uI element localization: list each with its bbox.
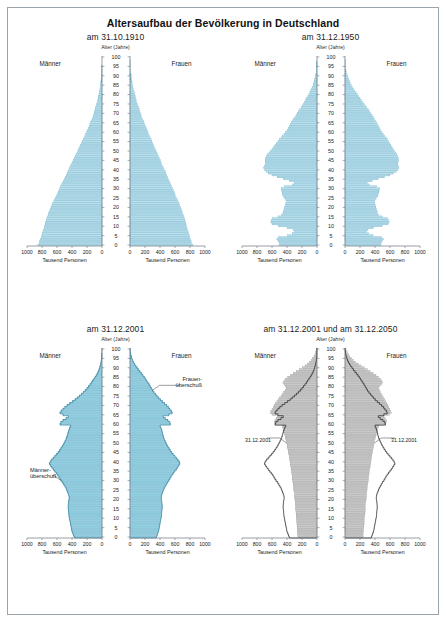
age-tick-35: 35 [328, 176, 334, 182]
bars-right [130, 350, 180, 538]
age-tick-75: 75 [113, 101, 119, 107]
svg-holder-2001-2050: 0510152025303540455055606570758085909510… [233, 342, 429, 574]
value-axis: 1000800600400200002004006008001000Tausen… [21, 538, 211, 555]
age-tick-0: 0 [329, 534, 332, 540]
age-tick-100: 100 [326, 54, 335, 60]
plot-1950: Männer Frauen 05101520253035404550556065… [233, 50, 429, 282]
xtick-left-1000: 1000 [21, 249, 33, 255]
panel-title-2001: am 31.12.2001 [8, 324, 223, 334]
xtick-right-0: 0 [343, 541, 346, 547]
age-tick-50: 50 [328, 440, 334, 446]
bars-left [37, 65, 101, 245]
age-tick-70: 70 [113, 110, 119, 116]
age-tick-10: 10 [113, 515, 119, 521]
age-tick-45: 45 [328, 157, 334, 163]
age-tick-20: 20 [328, 204, 334, 210]
xtick-right-200: 200 [140, 541, 149, 547]
age-tick-15: 15 [328, 214, 334, 220]
page-root: Altersaufbau der Bevölkerung in Deutschl… [0, 0, 446, 622]
xtick-right-1000: 1000 [199, 541, 211, 547]
panel-title-1950: am 31.12.1950 [223, 32, 438, 42]
xtick-right-600: 600 [385, 249, 394, 255]
xtick-right-800: 800 [400, 541, 409, 547]
age-tick-100: 100 [326, 346, 335, 352]
age-tick-60: 60 [328, 421, 334, 427]
age-tick-45: 45 [328, 449, 334, 455]
xtick-left-0: 0 [315, 249, 318, 255]
xtick-left-800: 800 [252, 541, 261, 547]
unit-label-left: Tausend Personen [42, 257, 86, 263]
bars-right [345, 60, 399, 246]
annotation-text: 31.12.2001 [245, 437, 271, 443]
age-tick-85: 85 [113, 82, 119, 88]
xtick-right-800: 800 [185, 249, 194, 255]
unit-label-left: Tausend Personen [257, 257, 301, 263]
age-tick-10: 10 [328, 223, 334, 229]
age-tick-65: 65 [328, 412, 334, 418]
value-axis: 1000800600400200002004006008001000Tausen… [236, 538, 426, 555]
age-tick-10: 10 [113, 223, 119, 229]
pyramid-grid: am 31.10.1910 Alter (Jahre) Männer Fraue… [8, 32, 438, 614]
figure-frame: Altersaufbau der Bevölkerung in Deutschl… [7, 7, 439, 615]
xtick-left-600: 600 [52, 249, 61, 255]
age-tick-0: 0 [114, 242, 117, 248]
age-tick-20: 20 [328, 496, 334, 502]
xtick-left-1000: 1000 [236, 249, 248, 255]
age-tick-55: 55 [328, 430, 334, 436]
unit-label-right: Tausend Personen [360, 549, 404, 555]
age-tick-0: 0 [329, 242, 332, 248]
age-tick-5: 5 [329, 233, 332, 239]
xtick-left-1000: 1000 [236, 541, 248, 547]
age-axis: 0510152025303540455055606570758085909510… [317, 346, 345, 540]
xtick-right-600: 600 [170, 541, 179, 547]
age-tick-50: 50 [328, 148, 334, 154]
xtick-left-200: 200 [82, 249, 91, 255]
chart-pyramid-2001-2050: 0510152025303540455055606570758085909510… [233, 342, 429, 574]
annotation-text-2: überschuß [30, 473, 57, 479]
age-tick-60: 60 [113, 421, 119, 427]
xtick-right-400: 400 [155, 249, 164, 255]
age-tick-90: 90 [328, 365, 334, 371]
age-tick-55: 55 [328, 138, 334, 144]
xtick-right-1000: 1000 [414, 249, 426, 255]
age-tick-50: 50 [113, 148, 119, 154]
age-tick-60: 60 [113, 129, 119, 135]
age-tick-30: 30 [328, 477, 334, 483]
age-tick-95: 95 [113, 63, 119, 69]
age-tick-70: 70 [328, 110, 334, 116]
unit-label-left: Tausend Personen [42, 549, 86, 555]
age-tick-0: 0 [114, 534, 117, 540]
xtick-left-600: 600 [267, 249, 276, 255]
age-tick-25: 25 [113, 195, 119, 201]
chart-pyramid-1910: 0510152025303540455055606570758085909510… [18, 50, 214, 282]
xtick-left-400: 400 [67, 249, 76, 255]
age-tick-80: 80 [328, 383, 334, 389]
age-tick-70: 70 [113, 402, 119, 408]
age-tick-15: 15 [113, 506, 119, 512]
bars-left [49, 354, 102, 538]
xtick-right-200: 200 [355, 249, 364, 255]
annotation-0: Frauen-überschuß [152, 376, 202, 390]
age-tick-60: 60 [328, 129, 334, 135]
age-tick-45: 45 [113, 157, 119, 163]
xtick-right-400: 400 [370, 249, 379, 255]
panel-pyramid-1950: am 31.12.1950 Alter (Jahre) Männer Fraue… [223, 32, 438, 324]
age-tick-10: 10 [328, 515, 334, 521]
age-tick-40: 40 [113, 459, 119, 465]
xtick-left-800: 800 [37, 541, 46, 547]
bars-right [130, 60, 193, 246]
age-tick-85: 85 [328, 82, 334, 88]
xtick-left-600: 600 [52, 541, 61, 547]
xtick-left-0: 0 [315, 541, 318, 547]
age-tick-100: 100 [111, 54, 120, 60]
age-tick-65: 65 [113, 120, 119, 126]
xtick-right-600: 600 [170, 249, 179, 255]
age-tick-65: 65 [328, 120, 334, 126]
age-tick-80: 80 [113, 383, 119, 389]
age-tick-30: 30 [113, 185, 119, 191]
age-tick-95: 95 [328, 355, 334, 361]
xtick-right-1000: 1000 [199, 249, 211, 255]
panel-title-2001-2050: am 31.12.2001 und am 31.12.2050 [223, 324, 438, 334]
age-tick-15: 15 [328, 506, 334, 512]
age-tick-55: 55 [113, 430, 119, 436]
